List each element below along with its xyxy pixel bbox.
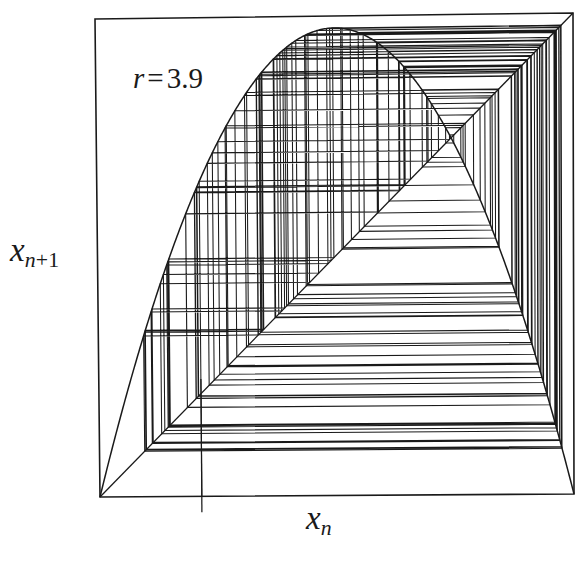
cobweb-orbit-path: [144, 25, 562, 496]
x-axis-label-subscript: n: [321, 516, 332, 540]
cobweb-diagram-svg: [0, 0, 584, 565]
parameter-value: 3.9: [167, 62, 203, 94]
x-axis-label: xn: [306, 500, 332, 541]
y-axis-label: xn+1: [10, 232, 59, 273]
figure-page: xn+1 xn r=3.9: [0, 0, 584, 565]
x-axis-label-var: x: [306, 500, 321, 536]
y-axis-label-var: x: [10, 232, 25, 268]
parameter-equals: =: [144, 62, 166, 94]
parameter-annotation: r=3.9: [133, 62, 203, 95]
y-axis-label-subscript: n+1: [25, 248, 60, 272]
parameter-symbol: r: [133, 62, 144, 94]
